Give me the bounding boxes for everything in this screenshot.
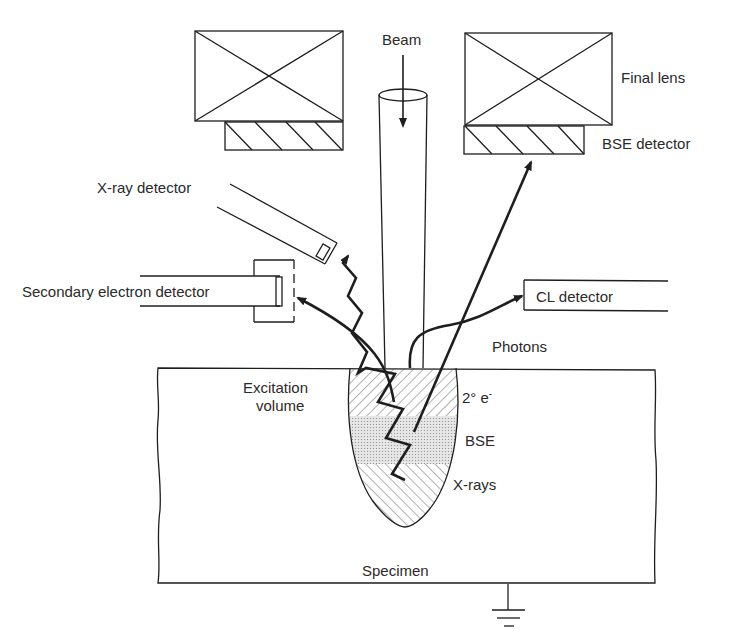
label-excitation-volume-1: Excitation <box>243 379 308 396</box>
label-final-lens: Final lens <box>621 69 685 86</box>
ground-icon <box>492 584 525 626</box>
label-bse-detector: BSE detector <box>602 135 690 152</box>
zone-secondary-electrons <box>340 368 470 416</box>
final-lens-left <box>195 31 343 150</box>
label-xrays: X-rays <box>453 476 496 493</box>
bse-detector-left-segment <box>225 122 343 150</box>
label-xray-detector: X-ray detector <box>97 179 191 196</box>
label-se-detector: Secondary electron detector <box>22 283 210 300</box>
label-specimen: Specimen <box>362 562 429 579</box>
bse-detector-right-segment <box>464 126 584 154</box>
sem-interaction-diagram: Final lens BSE detector Beam X-ray detec… <box>0 0 737 637</box>
label-bse: BSE <box>465 432 495 449</box>
final-lens-right <box>464 33 612 154</box>
label-photons: Photons <box>492 338 547 355</box>
photon-signal-path <box>410 296 522 368</box>
xray-detector-window <box>316 244 330 260</box>
xray-detector <box>217 184 337 264</box>
label-secondary-electrons: 2° e- <box>462 388 492 406</box>
label-beam: Beam <box>382 31 421 48</box>
zone-bse <box>340 416 470 464</box>
electron-beam <box>379 55 427 368</box>
label-cl-detector: CL detector <box>536 288 613 305</box>
label-excitation-volume-2: volume <box>256 397 304 414</box>
